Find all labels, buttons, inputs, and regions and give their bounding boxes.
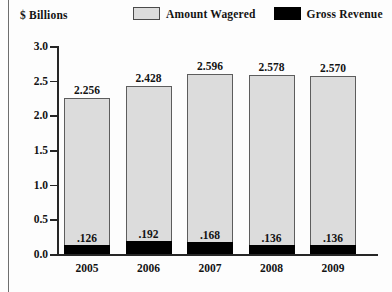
y-axis-tick-mark bbox=[50, 115, 57, 117]
y-axis-tick-mark bbox=[50, 219, 57, 221]
y-axis-tick-mark bbox=[50, 254, 57, 256]
bar-value-label-amount-wagered: 2.578 bbox=[237, 61, 307, 73]
bar-segment-gross-revenue bbox=[249, 245, 295, 254]
bar-segment-amount-wagered bbox=[310, 76, 356, 254]
y-axis-tick-label: 2.5 bbox=[34, 75, 48, 87]
bar-segment-amount-wagered bbox=[249, 75, 295, 254]
bar-segment-gross-revenue bbox=[310, 245, 356, 254]
y-axis-tick-mark bbox=[50, 185, 57, 187]
bar-group: .1682.596 bbox=[187, 74, 233, 254]
bar-series-container: .1262.256.1922.428.1682.596.1362.578.136… bbox=[57, 46, 378, 254]
legend-item-gross-revenue: Gross Revenue bbox=[274, 7, 383, 20]
x-axis-category-label: 2009 bbox=[310, 262, 356, 274]
x-axis-category-label: 2006 bbox=[126, 262, 172, 274]
bar-segment-gross-revenue bbox=[187, 242, 233, 254]
bar-group: .1262.256 bbox=[64, 98, 110, 254]
legend-swatch-amount-wagered bbox=[133, 7, 160, 20]
x-axis-category-label: 2007 bbox=[187, 262, 233, 274]
chart-legend: Amount Wagered Gross Revenue bbox=[133, 7, 383, 20]
bar-group: .1362.570 bbox=[310, 76, 356, 254]
bar-segment-amount-wagered bbox=[64, 98, 110, 254]
bar-value-label-gross-revenue: .168 bbox=[187, 229, 233, 241]
chart-figure: $ Billions Amount Wagered Gross Revenue … bbox=[0, 0, 392, 292]
y-axis-tick-mark bbox=[50, 46, 57, 48]
y-axis-tick-label: 3.0 bbox=[34, 40, 48, 52]
bar-value-label-gross-revenue: .136 bbox=[310, 232, 356, 244]
y-axis-tick-mark bbox=[50, 150, 57, 152]
y-axis-tick-label: 1.5 bbox=[34, 144, 48, 156]
bar-value-label-gross-revenue: .192 bbox=[126, 228, 172, 240]
y-axis-tick-mark bbox=[50, 81, 57, 83]
bar-value-label-amount-wagered: 2.256 bbox=[52, 84, 122, 96]
y-axis-tick-label: 0.0 bbox=[34, 248, 48, 260]
x-axis-category-labels: 20052006200720082009 bbox=[57, 262, 378, 280]
plot-area: 0.00.51.01.52.02.53.0 .1262.256.1922.428… bbox=[57, 46, 378, 255]
page-border-rule bbox=[8, 0, 9, 292]
y-axis-tick-label: 0.5 bbox=[34, 213, 48, 225]
x-axis-category-label: 2008 bbox=[249, 262, 295, 274]
y-axis-title: $ Billions bbox=[20, 9, 68, 21]
bar-segment-amount-wagered bbox=[187, 74, 233, 254]
bar-group: .1922.428 bbox=[126, 86, 172, 254]
bar-segment-gross-revenue bbox=[126, 241, 172, 254]
legend-swatch-gross-revenue bbox=[274, 7, 301, 20]
y-axis-tick-label: 1.0 bbox=[34, 179, 48, 191]
legend-item-amount-wagered: Amount Wagered bbox=[133, 7, 256, 20]
x-axis-category-label: 2005 bbox=[64, 262, 110, 274]
bar-group: .1362.578 bbox=[249, 75, 295, 254]
y-axis-tick-label: 2.0 bbox=[34, 109, 48, 121]
bar-value-label-amount-wagered: 2.428 bbox=[114, 72, 184, 84]
bar-value-label-amount-wagered: 2.570 bbox=[298, 62, 368, 74]
bar-value-label-amount-wagered: 2.596 bbox=[175, 60, 245, 72]
legend-label-gross-revenue: Gross Revenue bbox=[307, 8, 383, 20]
bar-value-label-gross-revenue: .126 bbox=[64, 232, 110, 244]
bar-segment-gross-revenue bbox=[64, 245, 110, 254]
bar-value-label-gross-revenue: .136 bbox=[249, 232, 295, 244]
legend-label-amount-wagered: Amount Wagered bbox=[166, 8, 256, 20]
